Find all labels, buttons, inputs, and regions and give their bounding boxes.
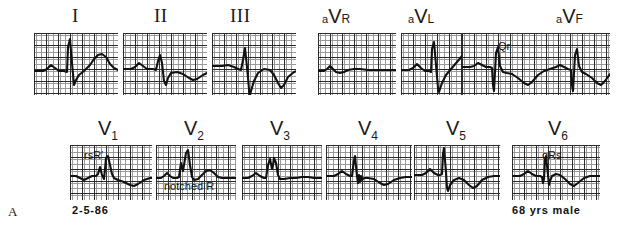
lead-label-V3: V3 <box>270 118 290 142</box>
ecg-panel-I <box>34 33 118 95</box>
lead-label-V2: V2 <box>184 118 204 142</box>
ecg-annotation-aVF: Qr <box>498 41 510 52</box>
ecg-panel-II <box>123 33 207 95</box>
ecg-panel-V3 <box>242 145 322 200</box>
figure-letter: A <box>8 205 17 218</box>
lead-label-V1: V1 <box>98 118 118 142</box>
recording-date: 2-5-86 <box>72 205 109 216</box>
ecg-panel-V6: qRs <box>512 145 600 200</box>
ecg-trace-III <box>212 48 296 95</box>
lead-label-V6: V6 <box>548 118 568 142</box>
ecg-annotation-V6: qRs <box>542 150 562 161</box>
lead-label-V5: V5 <box>446 118 466 142</box>
ecg-annotation-V1: rsR′ <box>84 150 103 161</box>
lead-label-II: II <box>154 6 168 25</box>
ecg-panel-aVF: Qr <box>462 33 610 95</box>
lead-label-I: I <box>72 6 79 25</box>
ecg-panel-V4 <box>326 145 412 200</box>
ecg-trace-V3 <box>242 158 322 179</box>
ecg-panel-V1: rsR′ <box>70 145 152 200</box>
lead-label-V4: V4 <box>358 118 378 142</box>
ecg-panel-V2: notched R <box>156 145 236 200</box>
lead-label-aVL: aVL <box>408 6 434 26</box>
ecg-trace-II <box>123 55 207 85</box>
ecg-panel-III <box>212 33 296 95</box>
ecg-panel-aVR <box>318 33 396 95</box>
lead-label-III: III <box>230 6 250 25</box>
ecg-trace-I <box>34 39 118 85</box>
ecg-panel-V5 <box>414 145 500 200</box>
ecg-annotation-V2: notched R <box>164 181 214 192</box>
ecg-figure: A IIIIIIaVRaVLaVFQrV1rsR′V2notched RV3V4… <box>0 0 626 232</box>
lead-label-aVR: aVR <box>322 6 350 26</box>
ecg-trace-aVF <box>462 47 610 91</box>
ecg-trace-V5 <box>414 148 500 191</box>
ecg-trace-aVR <box>318 66 396 73</box>
lead-label-aVF: aVF <box>556 6 583 26</box>
ecg-trace-V1 <box>70 156 152 186</box>
ecg-trace-V4 <box>326 156 412 185</box>
patient-description: 68 yrs male <box>512 205 581 216</box>
ecg-trace-V2 <box>156 150 236 180</box>
